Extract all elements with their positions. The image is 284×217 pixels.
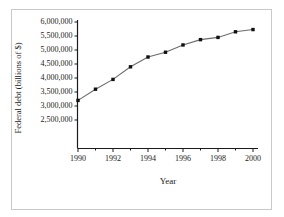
y-axis-title: Federal debt (billions of $) — [13, 42, 23, 133]
data-point-marker — [234, 30, 237, 33]
x-axis-title: Year — [160, 176, 177, 186]
y-axis-tick-label: 6,000,000 — [41, 18, 73, 26]
data-point-marker — [76, 99, 79, 102]
x-axis-tick-label: 1992 — [105, 155, 121, 163]
data-point-marker — [164, 51, 167, 54]
y-axis-tick-label: 2,500,000 — [41, 116, 73, 124]
data-point-markers — [76, 28, 254, 102]
x-axis-tick-label: 2000 — [245, 155, 261, 163]
data-point-marker — [199, 38, 202, 41]
data-point-marker — [94, 88, 97, 91]
y-axis-tick-label: 4,500,000 — [41, 60, 73, 68]
data-point-marker — [146, 55, 149, 58]
data-point-marker — [251, 28, 254, 31]
y-axis-tick-label: 3,000,000 — [41, 102, 73, 110]
x-axis-tick-label: 1998 — [210, 155, 226, 163]
data-series-line — [78, 30, 253, 101]
y-axis-tick-label: 5,000,000 — [41, 46, 73, 54]
y-axis-tick-label: 3,500,000 — [41, 88, 73, 96]
x-axis-tick-label: 1990 — [70, 155, 86, 163]
data-point-marker — [129, 65, 132, 68]
data-point-marker — [181, 43, 184, 46]
y-axis-tick-label: 5,500,000 — [41, 32, 73, 40]
y-axis-tick-label: 4,000,000 — [41, 74, 73, 82]
data-point-marker — [216, 36, 219, 39]
x-axis-tick-label: 1996 — [175, 155, 191, 163]
data-point-marker — [111, 78, 114, 81]
x-axis-tick-label: 1994 — [140, 155, 156, 163]
